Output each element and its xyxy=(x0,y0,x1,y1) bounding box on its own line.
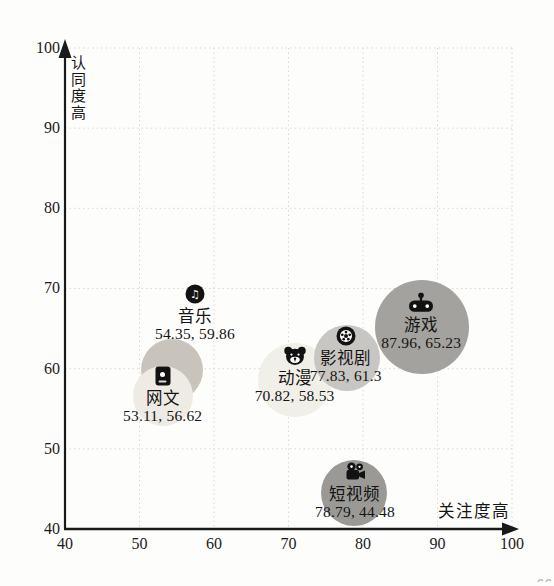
y-tick-50: 50 xyxy=(24,440,60,458)
music-note-icon: ♫ xyxy=(185,284,204,303)
x-tick-40: 40 xyxy=(57,535,73,553)
y-tick-80: 80 xyxy=(24,199,60,217)
ebook-icon xyxy=(155,366,170,385)
cropped-print-artifact xyxy=(536,576,554,584)
bubble-value-label-web-novel: 53.11, 56.62 xyxy=(123,407,202,425)
bubble-name-label-music: 音乐 xyxy=(178,303,212,327)
bubble-name-label-film-tv: 影视剧 xyxy=(320,345,371,369)
bubble-name-label-game: 游戏 xyxy=(404,312,438,336)
x-tick-60: 60 xyxy=(206,535,222,553)
x-tick-90: 90 xyxy=(430,535,446,553)
y-tick-60: 60 xyxy=(24,360,60,378)
y-tick-70: 70 xyxy=(24,279,60,297)
y-tick-90: 90 xyxy=(24,119,60,137)
x-axis-arrow-icon xyxy=(502,523,519,536)
bear-icon xyxy=(282,346,307,367)
bubble-value-label-game: 87.96, 65.23 xyxy=(381,334,461,352)
x-tick-50: 50 xyxy=(132,535,148,553)
plot-grid-and-axes xyxy=(0,0,554,586)
y-tick-40: 40 xyxy=(24,520,60,538)
bubble-value-label-anime: 70.82, 58.53 xyxy=(255,387,335,405)
bubble-value-label-short-video: 78.79, 44.48 xyxy=(315,503,395,521)
y-tick-100: 100 xyxy=(24,39,60,57)
bubble-value-label-music: 54.35, 59.86 xyxy=(155,325,235,343)
gamepad-icon xyxy=(408,292,435,313)
x-tick-100: 100 xyxy=(500,535,524,553)
y-axis-arrow-icon xyxy=(59,39,72,58)
x-tick-80: 80 xyxy=(355,535,371,553)
bubble-name-label-short-video: 短视频 xyxy=(329,481,380,505)
bubble-chart: 认同度高 关注度高 405060708090100405060708090100… xyxy=(0,0,554,586)
bubble-name-label-web-novel: 网文 xyxy=(146,385,180,409)
film-reel-icon xyxy=(336,326,356,346)
movie-camera-icon xyxy=(344,462,366,482)
x-tick-70: 70 xyxy=(281,535,297,553)
bubble-name-label-anime: 动漫 xyxy=(278,365,312,389)
bubble-value-label-film-tv: 77.83, 61.3 xyxy=(310,367,382,385)
